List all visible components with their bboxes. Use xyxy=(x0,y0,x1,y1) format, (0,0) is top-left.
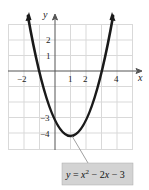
curve-arrow-right-icon xyxy=(110,12,116,21)
equation-label: y = x2 − 2x − 3 xyxy=(65,168,125,180)
tick-x-1: 1 xyxy=(68,74,73,84)
tick-y-neg4: −4 xyxy=(40,129,50,139)
graph: y x −2 1 2 4 2 1 −3 −4 y = x2 − 2x − 3 xyxy=(0,0,149,190)
curve-arrow-left-icon xyxy=(26,12,32,21)
x-axis-label: x xyxy=(137,72,143,83)
tick-y-1: 1 xyxy=(46,51,51,61)
tick-y-neg3: −3 xyxy=(40,113,50,123)
axes xyxy=(8,14,142,150)
tick-x-neg2: −2 xyxy=(17,74,27,84)
grid xyxy=(8,24,133,150)
tick-x-2: 2 xyxy=(83,74,88,84)
tick-x-4: 4 xyxy=(114,74,119,84)
tick-y-2: 2 xyxy=(46,35,51,45)
y-axis-label: y xyxy=(42,9,48,20)
